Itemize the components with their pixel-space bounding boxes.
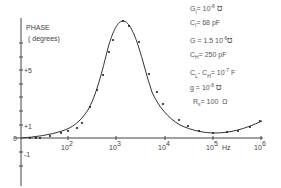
param-cl-minus-ch: CL- CH= 10-7 F bbox=[190, 67, 235, 79]
y-axis-unit: ( degrees) bbox=[28, 35, 60, 43]
phase-frequency-chart: PHASE ( degrees) +5 +1 0 -1 102 103 104 … bbox=[0, 0, 281, 188]
svg-text:10: 10 bbox=[61, 144, 69, 151]
y-tick-label-1: +1 bbox=[24, 123, 32, 130]
param-g1: Gl= 10-8 ℧ bbox=[190, 3, 222, 15]
svg-text:5: 5 bbox=[214, 140, 218, 147]
svg-text:2: 2 bbox=[69, 140, 73, 147]
param-ch: CH= 250 pF bbox=[190, 51, 227, 60]
y-tick-label-5: +5 bbox=[24, 67, 32, 74]
y-tick-label-neg1: -1 bbox=[24, 151, 30, 158]
svg-text:10: 10 bbox=[109, 144, 117, 151]
svg-text:Hz: Hz bbox=[222, 144, 231, 151]
svg-text:10: 10 bbox=[206, 144, 214, 151]
svg-text:3: 3 bbox=[117, 140, 121, 147]
svg-text:10: 10 bbox=[158, 144, 166, 151]
svg-text:6: 6 bbox=[262, 140, 266, 147]
y-tick-label-0: 0 bbox=[13, 135, 17, 142]
param-g: G = 1.5 10-6℧ bbox=[190, 35, 232, 45]
y-axis-label: PHASE bbox=[26, 24, 50, 31]
svg-text:4: 4 bbox=[166, 140, 170, 147]
svg-text:10: 10 bbox=[254, 144, 262, 151]
x-tick-labels: 102 103 104 105 Hz 106 bbox=[61, 140, 266, 151]
param-rs: Rs= 100 Ω bbox=[193, 98, 227, 107]
param-c1: Cl= 68 pF bbox=[190, 19, 220, 28]
param-g-small: g = 10-8 ℧ bbox=[190, 82, 221, 92]
